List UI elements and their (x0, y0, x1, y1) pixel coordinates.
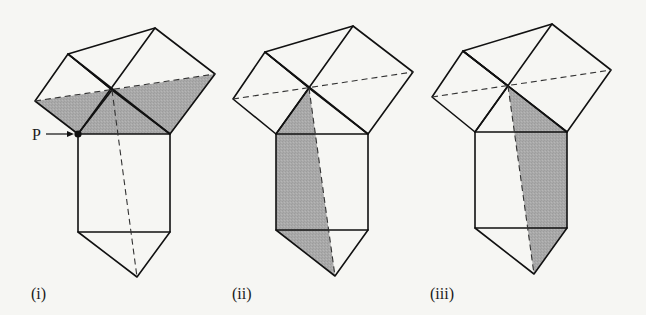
diagonal-line-ii (276, 26, 353, 134)
arrowhead-icon (67, 131, 74, 137)
panel-ii: (ii) (232, 26, 413, 303)
shaded-region-i (35, 74, 215, 134)
panel-label-iii: (iii) (430, 285, 454, 303)
dashed-line-horizontal-ii (233, 72, 413, 99)
point-p-label: P (32, 126, 41, 143)
shaded-region-iii (508, 86, 567, 274)
pythagorean-dissection-diagram: P (i) (ii) (iii) (0, 0, 646, 315)
panel-iii: (iii) (430, 24, 611, 303)
panel-i: P (i) (31, 28, 215, 303)
panel-label-ii: (ii) (232, 285, 252, 303)
diagonal-line-ii-2 (265, 52, 368, 134)
panel-label-i: (i) (31, 285, 46, 303)
dashed-line-horizontal-iii (432, 70, 611, 97)
shaded-region-ii (276, 88, 335, 276)
bottom-triangle-i (78, 232, 170, 277)
point-p-marker (74, 130, 81, 137)
left-leg-square-iii (432, 51, 508, 132)
